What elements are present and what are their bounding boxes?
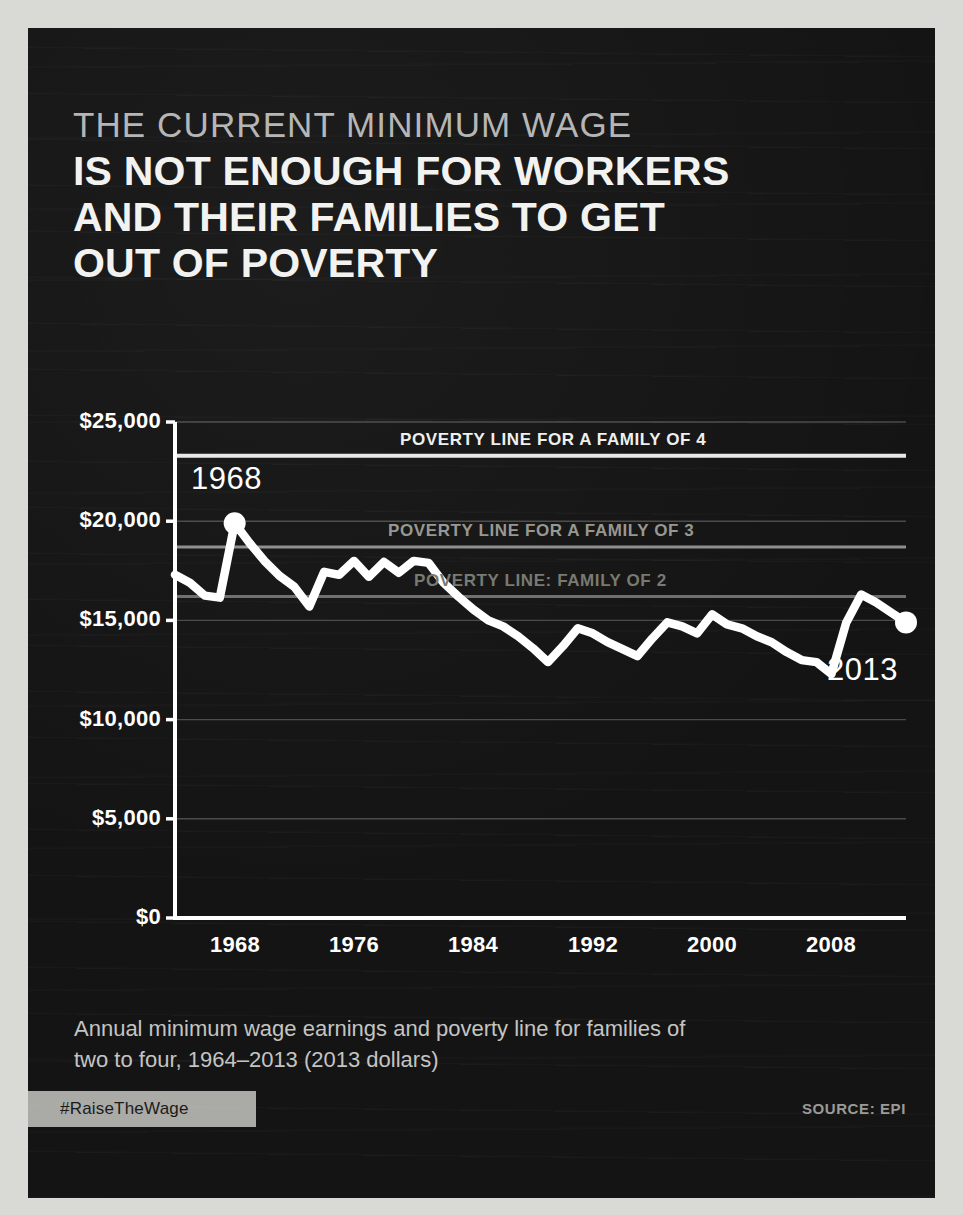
y-axis-tick-label: $25,000 — [49, 408, 161, 434]
data-point-marker — [224, 512, 246, 534]
y-axis-tick-label: $5,000 — [49, 805, 161, 831]
chart-annotation-1968: 1968 — [191, 461, 262, 497]
y-axis-tick-label: $20,000 — [49, 507, 161, 533]
x-axis-tick-label: 1976 — [294, 932, 414, 958]
y-axis-tick-label: $10,000 — [49, 706, 161, 732]
line-chart: POVERTY LINE FOR A FAMILY OF 4POVERTY LI… — [28, 28, 935, 1198]
data-point-marker — [895, 611, 917, 633]
x-axis-tick-label: 1984 — [413, 932, 533, 958]
poverty-line-label: POVERTY LINE FOR A FAMILY OF 4 — [400, 430, 706, 450]
y-axis-tick-label: $0 — [49, 904, 161, 930]
x-axis-tick-label: 1968 — [175, 932, 295, 958]
x-axis-tick-label: 1992 — [533, 932, 653, 958]
poverty-line-label: POVERTY LINE FOR A FAMILY OF 3 — [388, 521, 694, 541]
poverty-line-label: POVERTY LINE: FAMILY OF 2 — [414, 571, 667, 591]
chart-canvas — [28, 28, 935, 1198]
y-axis-tick-label: $15,000 — [49, 606, 161, 632]
infographic-poster: THE CURRENT MINIMUM WAGE IS NOT ENOUGH F… — [28, 28, 935, 1198]
x-axis-tick-label: 2008 — [771, 932, 891, 958]
chart-annotation-2013: 2013 — [827, 652, 898, 688]
x-axis-tick-label: 2000 — [652, 932, 772, 958]
